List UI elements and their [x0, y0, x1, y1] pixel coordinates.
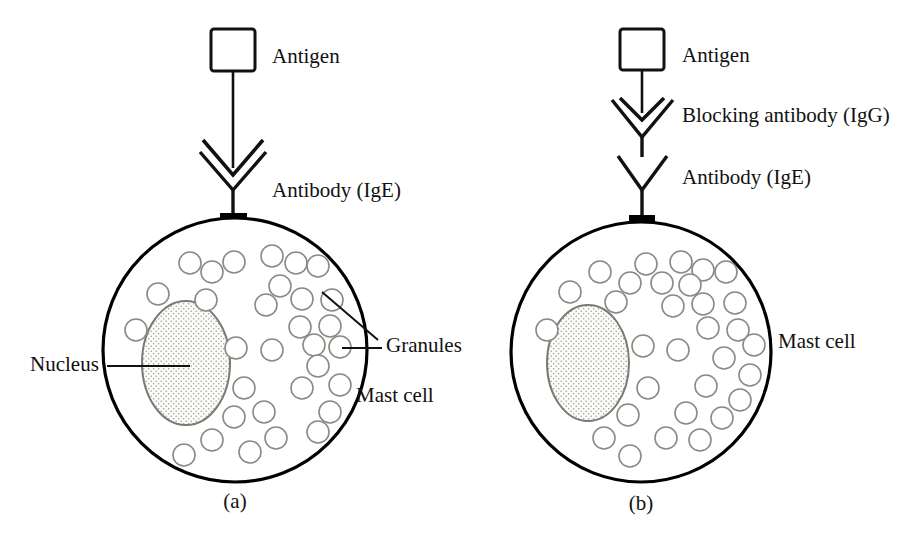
- granule-circle-icon: [329, 374, 351, 396]
- granule-circle-icon: [632, 335, 654, 357]
- granule-circle-icon: [729, 389, 751, 411]
- granules-label: Granules: [386, 333, 462, 357]
- granule-circle-icon: [617, 404, 639, 426]
- blocking-antibody-label: Blocking antibody (IgG): [682, 103, 890, 127]
- antibody-y-icon: [618, 156, 667, 190]
- antibody-label: Antibody (IgE): [272, 178, 401, 202]
- granule-circle-icon: [667, 339, 689, 361]
- antigen-label: Antigen: [272, 44, 340, 68]
- mast-cell-label-a: Mast cell: [356, 383, 434, 407]
- figure-root: Antigen Antibody (IgE): [0, 0, 921, 539]
- granule-circle-icon: [269, 275, 291, 297]
- granule-circle-icon: [291, 288, 313, 310]
- panel-a: Antigen Antibody (IgE): [30, 29, 462, 513]
- granule-circle-icon: [692, 293, 714, 315]
- granule-circle-icon: [223, 406, 245, 428]
- panel-caption-b: (b): [629, 491, 654, 515]
- granule-circle-icon: [605, 291, 627, 313]
- granule-circle-icon: [743, 334, 765, 356]
- granule-circle-icon: [715, 261, 737, 283]
- granule-circle-icon: [261, 245, 283, 267]
- granule-circle-icon: [291, 377, 313, 399]
- granule-circle-icon: [265, 427, 287, 449]
- granule-circle-icon: [670, 251, 692, 273]
- granule-circle-icon: [225, 337, 247, 359]
- granule-circle-icon: [239, 441, 261, 463]
- granule-circle-icon: [689, 429, 711, 451]
- nucleus-label: Nucleus: [30, 352, 99, 376]
- granule-circle-icon: [179, 252, 201, 274]
- granule-circle-icon: [285, 252, 307, 274]
- granule-circle-icon: [675, 402, 697, 424]
- mast-cell-diagram: Antigen Antibody (IgE): [0, 0, 921, 539]
- granule-circle-icon: [233, 377, 255, 399]
- nucleus-ellipse-icon: [547, 305, 629, 421]
- panel-caption-a: (a): [223, 489, 246, 513]
- granule-circle-icon: [679, 274, 701, 296]
- nucleus-group: [547, 305, 629, 421]
- panel-b: Antigen Blocking antibody (IgG) Antibody…: [511, 29, 890, 515]
- granule-circle-icon: [173, 444, 195, 466]
- granule-circle-icon: [619, 445, 641, 467]
- granule-circle-icon: [637, 377, 659, 399]
- granule-circle-icon: [319, 315, 341, 337]
- antigen-square-icon: [620, 29, 664, 70]
- granule-circle-icon: [307, 355, 329, 377]
- granule-circle-icon: [125, 319, 147, 341]
- granule-circle-icon: [147, 283, 169, 305]
- mast-cell-label-b: Mast cell: [778, 329, 856, 353]
- granule-circle-icon: [319, 401, 341, 423]
- granule-circle-icon: [655, 427, 677, 449]
- antigen-square-icon: [211, 29, 255, 71]
- granule-circle-icon: [739, 364, 761, 386]
- granule-circle-icon: [195, 289, 217, 311]
- antigen-label: Antigen: [682, 43, 750, 67]
- granule-circle-icon: [255, 294, 277, 316]
- granule-circle-icon: [261, 339, 283, 361]
- granule-circle-icon: [303, 334, 325, 356]
- granule-circle-icon: [201, 429, 223, 451]
- granule-circle-icon: [695, 375, 717, 397]
- granule-circle-icon: [253, 401, 275, 423]
- granule-circle-icon: [662, 295, 684, 317]
- granule-circle-icon: [223, 251, 245, 273]
- granule-circle-icon: [307, 255, 329, 277]
- granule-circle-icon: [201, 261, 223, 283]
- granule-circle-icon: [559, 281, 581, 303]
- nucleus-ellipse-icon: [142, 301, 230, 425]
- granule-circle-icon: [536, 319, 558, 341]
- nucleus-group: [142, 301, 230, 425]
- antibody-label: Antibody (IgE): [682, 165, 811, 189]
- granule-circle-icon: [593, 427, 615, 449]
- granule-circle-icon: [589, 261, 611, 283]
- granule-circle-icon: [619, 272, 641, 294]
- granule-circle-icon: [697, 317, 719, 339]
- granule-circle-icon: [635, 253, 657, 275]
- granule-circle-icon: [711, 407, 733, 429]
- granule-circle-icon: [307, 421, 329, 443]
- granule-circle-icon: [724, 292, 746, 314]
- granule-circle-icon: [651, 272, 673, 294]
- granule-circle-icon: [289, 316, 311, 338]
- granule-circle-icon: [713, 347, 735, 369]
